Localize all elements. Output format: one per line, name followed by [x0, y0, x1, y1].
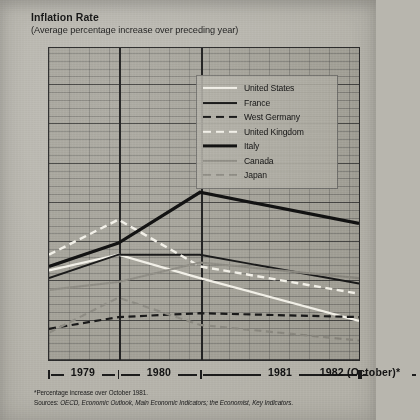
line-swatch-dashed-dark: [203, 112, 237, 123]
legend-item-united-kingdom[interactable]: United Kingdom: [203, 125, 331, 140]
x-axis-year-label: 1982 (October)*: [204, 366, 420, 378]
x-axis-year-band: 1979198019811982 (October)*: [48, 364, 360, 384]
footnote-sources-prefix: Sources:: [34, 399, 60, 406]
x-axis-year-tick: [360, 370, 362, 379]
series-line-west-germany: [49, 313, 359, 329]
line-swatch-dashed-gray: [203, 170, 237, 181]
chart-legend: United StatesFranceWest GermanyUnited Ki…: [196, 75, 338, 189]
footnote-sources-text: OECD, Economic Outlook, Main Economic In…: [60, 399, 293, 406]
x-axis-year-rule: [363, 374, 367, 376]
chart-subtitle: (Average percentage increase over preced…: [31, 25, 238, 35]
line-swatch-solid-gray: [203, 155, 237, 166]
series-line-united-kingdom: [49, 220, 359, 294]
legend-item-japan[interactable]: Japan: [203, 168, 331, 183]
chart-title: Inflation Rate: [31, 11, 99, 23]
line-swatch-dashed-white: [203, 126, 237, 137]
legend-item-label: Italy: [244, 141, 259, 151]
legend-item-label: United States: [244, 83, 294, 93]
x-axis-year-tick: [358, 370, 360, 379]
line-swatch-solid-thick-black: [203, 141, 237, 152]
footnote-asterisk: *Percentage increase over October 1981.: [34, 389, 148, 396]
x-axis-year-tick: [200, 370, 202, 379]
legend-item-france[interactable]: France: [203, 96, 331, 111]
series-line-japan: [49, 298, 359, 341]
legend-item-label: Canada: [244, 156, 274, 166]
footnote-sources: Sources: OECD, Economic Outlook, Main Ec…: [34, 399, 293, 406]
legend-item-united-states[interactable]: United States: [203, 81, 331, 96]
legend-item-west-germany[interactable]: West Germany: [203, 110, 331, 125]
legend-item-label: Japan: [244, 170, 267, 180]
legend-item-canada[interactable]: Canada: [203, 154, 331, 169]
x-axis-year-tick: [118, 370, 120, 379]
series-line-united-states: [49, 255, 359, 321]
legend-item-label: West Germany: [244, 112, 300, 122]
legend-item-label: United Kingdom: [244, 127, 304, 137]
line-swatch-solid-dark: [203, 97, 237, 108]
legend-item-label: France: [244, 98, 270, 108]
x-axis-year-rule: [412, 374, 416, 376]
line-swatch-solid-white: [203, 83, 237, 94]
legend-item-italy[interactable]: Italy: [203, 139, 331, 154]
